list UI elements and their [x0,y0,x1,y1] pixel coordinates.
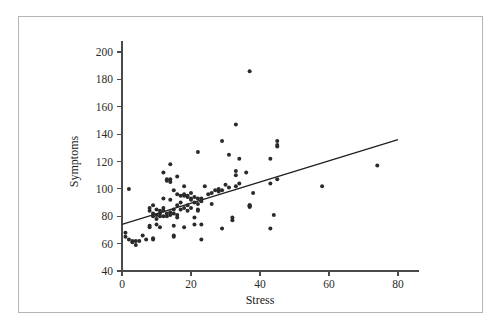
y-tick-label: 100 [96,183,114,195]
data-point [127,238,131,242]
data-point [179,201,183,205]
data-point [134,243,138,247]
data-point [189,198,193,202]
data-point [268,181,272,185]
data-point [182,184,186,188]
data-point [172,224,176,228]
data-point [148,209,152,213]
data-point [172,212,176,216]
data-point [179,194,183,198]
data-point [196,202,200,206]
data-point [206,192,210,196]
data-point [272,213,276,217]
x-tick-label: 0 [119,278,125,290]
data-point [237,157,241,161]
data-point [268,157,272,161]
data-point [182,206,186,210]
data-point-group [123,69,379,247]
data-point [196,196,200,200]
data-point [168,162,172,166]
data-point [210,191,214,195]
data-point [320,184,324,188]
y-tick-label: 160 [96,101,114,113]
data-point [199,199,203,203]
data-point [123,235,127,239]
data-point [148,225,152,229]
data-point [165,214,169,218]
data-point [213,188,217,192]
data-point [203,184,207,188]
data-point [155,213,159,217]
data-point [172,207,176,211]
data-point [179,207,183,211]
data-point [161,196,165,200]
data-point [155,217,159,221]
data-point [230,218,234,222]
data-point [158,225,162,229]
data-point [220,139,224,143]
data-point [275,177,279,181]
data-point [151,214,155,218]
x-tick-label: 20 [185,278,197,290]
data-point [192,195,196,199]
data-point [186,195,190,199]
data-point [237,181,241,185]
data-point [123,231,127,235]
data-point [182,194,186,198]
data-point [268,227,272,231]
data-point [175,175,179,179]
data-point [248,69,252,73]
scatter-plot-figure: 406080100120140160180200020406080StressS… [0,0,500,330]
data-point [161,214,165,218]
data-point [168,180,172,184]
data-point [134,239,138,243]
y-tick-label: 180 [96,73,114,85]
data-point [161,170,165,174]
data-point [175,216,179,220]
data-point [175,192,179,196]
x-tick-label: 60 [323,278,335,290]
data-point [210,202,214,206]
data-point [161,209,165,213]
plot-canvas: 406080100120140160180200020406080StressS… [0,0,500,330]
data-point [217,190,221,194]
x-axis-title: Stress [246,293,275,307]
data-point [127,187,131,191]
data-point [244,170,248,174]
data-point [155,222,159,226]
y-tick-label: 40 [102,265,114,277]
x-tick-label: 80 [392,278,404,290]
data-point [192,216,196,220]
data-point [196,150,200,154]
data-point [375,164,379,168]
data-point [130,240,134,244]
data-point [158,214,162,218]
y-tick-label: 120 [96,156,114,168]
data-point [155,207,159,211]
y-tick-label: 80 [102,210,114,222]
y-tick-label: 200 [96,46,114,58]
data-point [151,238,155,242]
data-point [234,173,238,177]
data-point [175,203,179,207]
data-point [234,169,238,173]
data-point [199,238,203,242]
data-point [168,213,172,217]
data-point [227,153,231,157]
data-point [220,188,224,192]
data-point [144,238,148,242]
data-point [151,203,155,207]
y-axis-title: Symptoms [67,136,81,188]
x-tick-label: 40 [254,278,266,290]
data-point [199,222,203,226]
data-point [196,209,200,213]
data-point [141,233,145,237]
data-point [192,201,196,205]
y-tick-label: 60 [102,238,114,250]
data-point [189,206,193,210]
data-point [137,239,141,243]
data-point [275,144,279,148]
data-point [251,191,255,195]
data-point [186,209,190,213]
data-point [182,225,186,229]
